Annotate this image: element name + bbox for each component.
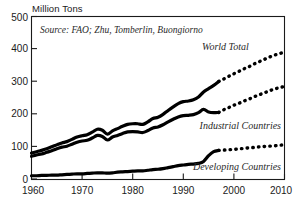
y-tick-label-400: 400 [11, 43, 28, 54]
x-tick-label-1960: 1960 [22, 185, 45, 196]
x-tick-label-2000: 2000 [223, 185, 246, 196]
y-tick-label-500: 500 [11, 12, 28, 23]
x-tick-label-1980: 1980 [122, 185, 145, 196]
series-label-developing: Developing Countries [192, 161, 281, 172]
y-axis-unit-label: Million Tons [32, 3, 83, 14]
series-label-world-total: World Total [202, 41, 249, 52]
source-annotation: Source: FAO; Zhu, Tomberlin, Buongiorno [40, 25, 203, 35]
y-tick-label-0: 0 [22, 174, 28, 185]
y-tick-label-300: 300 [11, 76, 28, 87]
x-tick-label-1990: 1990 [172, 185, 195, 196]
line-chart: Million Tons 0 100 200 300 400 500 [0, 0, 293, 208]
y-tick-label-200: 200 [11, 108, 28, 119]
y-tick-label-100: 100 [11, 141, 28, 152]
x-tick-label-1970: 1970 [71, 185, 94, 196]
chart-figure: Million Tons 0 100 200 300 400 500 [0, 0, 293, 208]
x-tick-label-2010: 2010 [270, 185, 293, 196]
series-label-industrial: Industrial Countries [199, 120, 282, 131]
